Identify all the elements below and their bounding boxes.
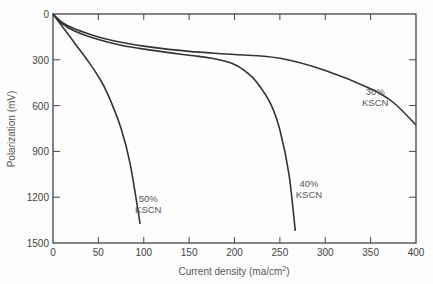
y-tick-label: 300	[32, 55, 49, 66]
axis-ticks: 0501001502002503003504000300600900120015…	[27, 9, 425, 258]
y-axis-label: Polarization (mV)	[6, 91, 17, 168]
curve-30-kscn	[53, 14, 416, 125]
curve-50-kscn	[53, 14, 140, 224]
curve-label: KSCN	[296, 189, 323, 200]
x-tick-label: 400	[408, 247, 425, 258]
x-tick-label: 0	[50, 247, 56, 258]
curve-label: KSCN	[135, 204, 162, 215]
curve-label: 40%	[299, 178, 319, 189]
curve-label: KSCN	[362, 97, 389, 108]
x-tick-label: 50	[93, 247, 105, 258]
y-tick-label: 600	[32, 101, 49, 112]
x-tick-label: 250	[272, 247, 289, 258]
plot-border	[53, 14, 416, 243]
polarization-chart: 0501001502002503003504000300600900120015…	[0, 0, 433, 284]
curve-labels: 30%KSCN40%KSCN50%KSCN	[135, 86, 388, 215]
curves	[53, 14, 416, 231]
y-tick-label: 1500	[27, 238, 50, 249]
x-tick-label: 150	[181, 247, 198, 258]
x-tick-label: 100	[135, 247, 152, 258]
curve-label: 30%	[366, 86, 386, 97]
x-tick-label: 300	[317, 247, 334, 258]
curve-40-kscn	[53, 14, 295, 231]
y-tick-label: 900	[32, 146, 49, 157]
x-tick-label: 350	[362, 247, 379, 258]
y-tick-label: 1200	[27, 192, 50, 203]
x-axis-label: Current density (ma/cm2)	[178, 265, 289, 277]
y-tick-label: 0	[43, 9, 49, 20]
plot-frame	[53, 14, 416, 243]
x-tick-label: 200	[226, 247, 243, 258]
curve-label: 50%	[139, 193, 159, 204]
